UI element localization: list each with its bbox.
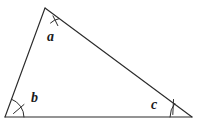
triangle-diagram-svg xyxy=(0,0,217,124)
angle-tick-c xyxy=(173,100,174,115)
angle-arc-c xyxy=(170,103,175,117)
triangle-figure: a b c xyxy=(0,0,217,124)
angle-label-b: b xyxy=(31,91,38,105)
angle-label-a: a xyxy=(47,30,54,44)
triangle-edge-left xyxy=(5,8,45,117)
angle-label-c: c xyxy=(151,98,157,112)
triangle-edge-hypotenuse xyxy=(45,8,192,117)
angle-marker-b xyxy=(12,99,25,117)
angle-arc-b xyxy=(12,99,25,117)
